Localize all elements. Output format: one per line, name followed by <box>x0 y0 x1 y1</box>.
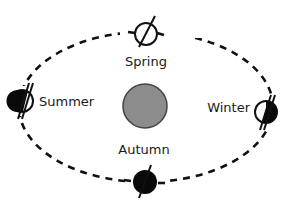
sun-icon <box>123 84 167 128</box>
label-summer: Summer <box>39 94 95 109</box>
earth-spring-icon <box>120 16 244 47</box>
orbit-diagram: Spring Summer Winter Autumn <box>0 0 292 212</box>
label-autumn: Autumn <box>118 142 169 157</box>
label-winter: Winter <box>207 100 251 115</box>
earth-autumn-icon <box>124 165 165 198</box>
label-spring: Spring <box>125 54 167 69</box>
earth-winter-icon <box>255 95 277 130</box>
earth-summer-icon <box>6 83 33 119</box>
